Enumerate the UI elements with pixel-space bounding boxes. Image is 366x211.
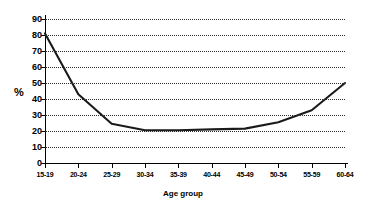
x-axis-line (42, 163, 348, 164)
y-axis-tick-label: 0 (24, 159, 42, 168)
y-gridline (45, 35, 345, 36)
y-axis-tick-label: 80 (24, 31, 42, 40)
x-axis-tick-label: 50-54 (261, 171, 295, 178)
y-axis-tick-label: 20 (24, 127, 42, 136)
y-gridline (45, 19, 345, 20)
x-axis-tick-label: 25-29 (95, 171, 129, 178)
x-axis-tick-mark (278, 164, 279, 168)
x-axis-tick-label: 55-59 (295, 171, 329, 178)
x-axis-tick-mark (345, 164, 346, 168)
x-axis-tick-label: 20-24 (61, 171, 95, 178)
y-axis-tick-mark (41, 51, 45, 52)
y-gridline (45, 115, 345, 116)
x-axis-tick-mark (212, 164, 213, 168)
y-axis-tick-label: 90 (24, 15, 42, 24)
y-axis-tick-mark (41, 147, 45, 148)
y-axis-tick-mark (41, 19, 45, 20)
y-axis-tick-mark (41, 115, 45, 116)
plot-area (45, 19, 345, 163)
y-gridline (45, 147, 345, 148)
y-axis-tick-mark (41, 131, 45, 132)
y-gridline (45, 83, 345, 84)
x-axis-tick-mark (78, 164, 79, 168)
y-axis-tick-label: 50 (24, 79, 42, 88)
x-axis-tick-mark (45, 164, 46, 168)
x-axis-tick-label: 15-19 (28, 171, 62, 178)
x-axis-tick-label: 35-39 (161, 171, 195, 178)
y-gridline (45, 99, 345, 100)
x-axis-tick-label: 45-49 (228, 171, 262, 178)
y-axis-tick-label: 70 (24, 47, 42, 56)
x-axis-tick-mark (245, 164, 246, 168)
y-axis-tick-mark (41, 83, 45, 84)
y-gridline (45, 51, 345, 52)
y-axis-tick-mark (41, 99, 45, 100)
x-axis-tick-mark (312, 164, 313, 168)
y-gridline (45, 131, 345, 132)
y-gridline (45, 67, 345, 68)
x-axis-tick-label: 40-44 (195, 171, 229, 178)
x-axis-title: Age group (0, 189, 366, 198)
x-axis-tick-label: 60-64 (328, 171, 362, 178)
y-axis-tick-label: 40 (24, 95, 42, 104)
data-series-line (45, 19, 345, 163)
y-axis-tick-label: 30 (24, 111, 42, 120)
x-axis-tick-mark (178, 164, 179, 168)
x-axis-tick-mark (112, 164, 113, 168)
y-axis-tick-mark (41, 67, 45, 68)
x-axis-tick-mark (145, 164, 146, 168)
x-axis-tick-label: 30-34 (128, 171, 162, 178)
y-axis-tick-label: 10 (24, 143, 42, 152)
y-axis-tick-labels: 0102030405060708090 (24, 0, 42, 211)
y-axis-tick-mark (41, 35, 45, 36)
y-axis-tick-label: 60 (24, 63, 42, 72)
chart-figure: % 0102030405060708090 Age group 15-1920-… (0, 0, 366, 211)
